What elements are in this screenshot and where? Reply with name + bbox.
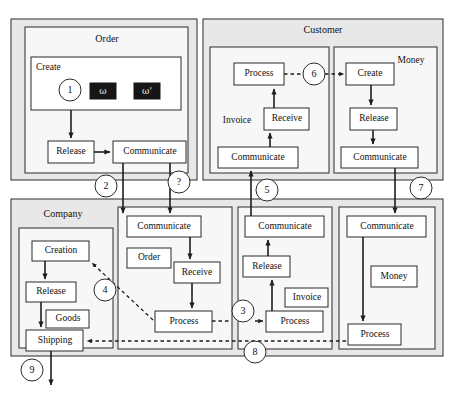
pool-label-company: Company <box>44 209 83 219</box>
label-company-goods-shipping: Shipping <box>38 336 72 346</box>
connector-4-label: 4 <box>103 285 108 295</box>
label-company-invoice-release: Release <box>252 262 282 272</box>
connector-8-label: 8 <box>253 347 258 357</box>
connector-3-label: 3 <box>241 306 246 316</box>
label-order-communicate: Communicate <box>123 147 176 157</box>
lane-label-company-money: Money <box>381 272 408 282</box>
connector-question-label: ? <box>177 177 181 187</box>
label-company-order-receive: Receive <box>182 268 213 278</box>
pool-label-customer: Customer <box>304 25 343 35</box>
token-label-omega: ω <box>99 87 106 96</box>
lane-label-order-create: Create <box>36 63 61 73</box>
connector-1-label: 1 <box>68 85 73 95</box>
lane-label-company-goods: Goods <box>56 314 81 324</box>
pool-label-order: Order <box>95 34 118 44</box>
connector-7-label: 7 <box>419 183 424 193</box>
lane-label-customer-invoice: Invoice <box>223 116 252 126</box>
label-order-release: Release <box>56 147 86 157</box>
token-label-omega-prime: ω' <box>142 87 152 96</box>
connector-5-label: 5 <box>265 185 270 195</box>
label-company-money-process: Process <box>360 330 389 340</box>
label-company-money-communicate: Communicate <box>360 222 413 232</box>
label-company-invoice-communicate: Communicate <box>258 222 311 232</box>
label-company-goods-release: Release <box>36 287 66 297</box>
label-company-invoice-process: Process <box>280 317 309 327</box>
connector-2-label: 2 <box>104 181 109 191</box>
label-cust-money-create: Create <box>358 69 383 79</box>
label-cust-invoice-communicate: Communicate <box>231 153 284 163</box>
connector-9-label: 9 <box>30 365 35 375</box>
lane-label-company-order: Order <box>138 253 160 263</box>
label-company-order-process: Process <box>169 317 198 327</box>
label-cust-invoice-receive: Receive <box>272 114 303 124</box>
label-cust-money-communicate: Communicate <box>353 153 406 163</box>
diagram-canvas: Order Customer Company Create Invoice Mo… <box>0 0 454 403</box>
label-cust-invoice-process: Process <box>244 69 273 79</box>
label-cust-money-release: Release <box>359 114 389 124</box>
label-company-goods-creation: Creation <box>45 246 78 256</box>
connector-6-label: 6 <box>312 69 317 79</box>
label-company-order-communicate: Communicate <box>137 222 190 232</box>
lane-label-company-invoice: Invoice <box>293 293 322 303</box>
lane-label-customer-money: Money <box>398 56 425 66</box>
